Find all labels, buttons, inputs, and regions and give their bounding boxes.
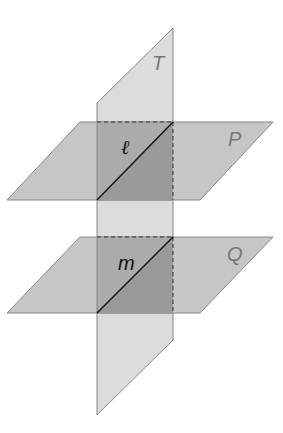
plane-t-upper (97, 28, 173, 122)
label-t: T (152, 52, 166, 74)
plane-t-middle (97, 200, 173, 237)
label-q: Q (227, 243, 243, 265)
plane-t-lower (97, 313, 173, 415)
label-p: P (228, 128, 242, 150)
parallel-planes-diagram: T P Q ℓ m (0, 0, 283, 433)
label-l: ℓ (121, 136, 130, 158)
label-m: m (118, 252, 135, 274)
